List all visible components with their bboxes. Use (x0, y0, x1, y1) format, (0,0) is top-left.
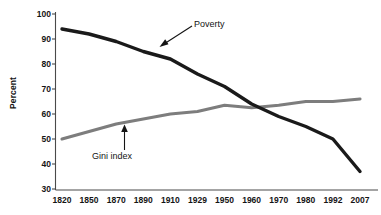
x-axis-tick-1950: 1950 (215, 196, 234, 205)
x-axis-tick-1980: 1980 (296, 196, 315, 205)
x-axis-tick-1960: 1960 (242, 196, 261, 205)
x-axis-tick-1910: 1910 (161, 196, 180, 205)
x-axis-tick-labels: 1820185018701890191019291950196019701980… (0, 0, 381, 215)
x-axis-tick-1890: 1890 (134, 196, 153, 205)
x-axis-tick-2007: 2007 (351, 196, 370, 205)
x-axis-tick-1992: 1992 (323, 196, 342, 205)
x-axis-tick-1820: 1820 (53, 196, 72, 205)
chart-container: Percent 30405060708090100 18201850187018… (0, 0, 381, 215)
x-axis-tick-1850: 1850 (80, 196, 99, 205)
x-axis-tick-1970: 1970 (269, 196, 288, 205)
annotation-gini-label: Gini index (92, 152, 132, 161)
annotation-poverty-label: Poverty (194, 20, 225, 29)
x-axis-tick-1929: 1929 (188, 196, 207, 205)
x-axis-tick-1870: 1870 (107, 196, 126, 205)
